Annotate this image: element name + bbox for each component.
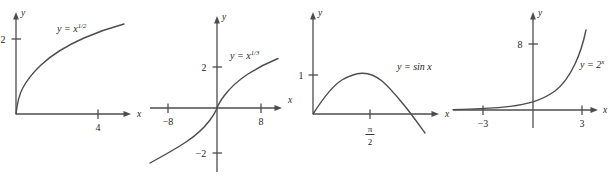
x-tick-label-pi-numerator: π — [368, 124, 373, 134]
x-tick-label-8: 8 — [259, 116, 264, 127]
x-axis-label: x — [444, 109, 450, 119]
plot-area-exp: 8 −3 3 y x y = 2x — [452, 0, 610, 176]
curve-label-exp: y = 2x — [579, 58, 604, 70]
y-tick-label-neg2: −2 — [196, 148, 207, 159]
y-axis-arrowhead — [214, 16, 220, 24]
curve-label-sin: y = sin x — [396, 61, 432, 72]
x-axis-arrowhead — [591, 107, 599, 113]
y-tick-label-8: 8 — [518, 39, 523, 50]
x-tick-label-4: 4 — [96, 122, 101, 133]
x-axis-label: x — [136, 109, 142, 119]
function-graphs-figure: 2 4 y x y = x1/2 2 — [0, 0, 610, 176]
y-axis-label: y — [317, 8, 323, 18]
x-tick-label-neg3: −3 — [478, 118, 489, 129]
plot-area-sin: 1 π 2 y x y = sin x — [296, 0, 461, 176]
curve-label-sin-text: y = sin x — [396, 61, 432, 72]
y-axis-arrowhead — [310, 12, 316, 20]
y-axis-label: y — [20, 8, 26, 18]
curve-label-sqrt: y = x1/2 — [56, 22, 87, 34]
curve-label-sqrt-exponent: 1/2 — [78, 22, 87, 29]
x-axis-arrowhead — [432, 111, 440, 117]
curve-label-cbrt-lhs: y = x — [229, 50, 251, 61]
y-axis-arrowhead — [530, 12, 536, 20]
x-tick-label-neg8: −8 — [163, 116, 174, 127]
plot-area-cbrt: 2 −2 −8 8 y x y = x1/3 — [148, 0, 300, 176]
curve-label-cbrt-exponent: 1/3 — [251, 49, 260, 56]
curve-label-cbrt: y = x1/3 — [229, 49, 260, 61]
x-axis-label: x — [287, 95, 293, 105]
y-tick-label-2: 2 — [202, 62, 207, 73]
curve-label-exp-exponent: x — [600, 58, 604, 65]
y-tick-label-2: 2 — [1, 34, 6, 45]
curve-label-sqrt-lhs: y = x — [56, 23, 78, 34]
graph-panel-exp: 8 −3 3 y x y = 2x — [452, 0, 610, 176]
x-tick-label-pi-denominator: 2 — [368, 137, 373, 147]
graph-panel-cbrt: 2 −2 −8 8 y x y = x1/3 — [148, 0, 300, 176]
y-tick-label-1: 1 — [299, 70, 304, 81]
x-axis-arrowhead — [275, 105, 283, 111]
curve-label-exp-lhs: y = 2 — [579, 59, 601, 70]
curve-cbrt — [150, 59, 278, 164]
graph-panel-sqrt: 2 4 y x y = x1/2 — [0, 0, 155, 176]
graph-panel-sin: 1 π 2 y x y = sin x — [296, 0, 461, 176]
curve-sqrt — [16, 24, 124, 114]
plot-area-sqrt: 2 4 y x y = x1/2 — [0, 0, 155, 176]
y-axis-label: y — [537, 8, 543, 18]
x-axis-label: x — [602, 105, 608, 115]
x-axis-arrowhead — [124, 111, 132, 117]
x-tick-label-3: 3 — [580, 118, 585, 129]
y-axis-arrowhead — [13, 12, 19, 20]
y-axis-label: y — [221, 12, 227, 22]
